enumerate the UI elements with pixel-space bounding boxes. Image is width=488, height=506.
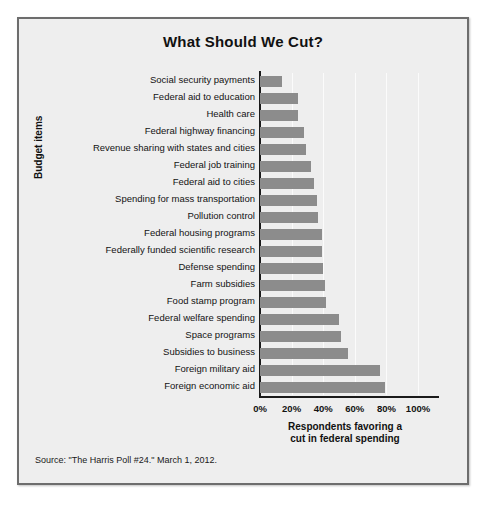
x-tick-label: 20% bbox=[282, 403, 301, 414]
category-label: Foreign economic aid bbox=[164, 380, 255, 391]
category-label: Revenue sharing with states and cities bbox=[93, 142, 255, 153]
bar bbox=[260, 365, 380, 376]
chart-title: What Should We Cut? bbox=[19, 33, 467, 50]
bar-row: Federal welfare spending bbox=[260, 311, 418, 328]
x-axis-label-line1: Respondents favoring a bbox=[260, 421, 430, 433]
category-label: Foreign military aid bbox=[175, 363, 255, 374]
bar-row: Space programs bbox=[260, 328, 418, 345]
category-label: Federal housing programs bbox=[144, 227, 255, 238]
bar-row: Pollution control bbox=[260, 209, 418, 226]
bar-row: Federally funded scientific research bbox=[260, 243, 418, 260]
bar bbox=[260, 93, 298, 104]
bar-row: Spending for mass transportation bbox=[260, 192, 418, 209]
category-label: Federal aid to cities bbox=[173, 176, 255, 187]
x-axis-label-line2: cut in federal spending bbox=[260, 433, 430, 445]
category-label: Space programs bbox=[185, 329, 255, 340]
bar-row: Federal aid to education bbox=[260, 90, 418, 107]
bar bbox=[260, 229, 322, 240]
chart-figure: What Should We Cut? Social security paym… bbox=[17, 17, 469, 485]
bar-row: Subsidies to business bbox=[260, 345, 418, 362]
bar bbox=[260, 246, 322, 257]
bar bbox=[260, 76, 282, 87]
bar-row: Food stamp program bbox=[260, 294, 418, 311]
category-label: Federal aid to education bbox=[153, 91, 255, 102]
category-label: Health care bbox=[206, 108, 255, 119]
bar-row: Federal housing programs bbox=[260, 226, 418, 243]
bar-row: Social security payments bbox=[260, 73, 418, 90]
bar-row: Farm subsidies bbox=[260, 277, 418, 294]
x-tick-label: 80% bbox=[377, 403, 396, 414]
category-label: Spending for mass transportation bbox=[115, 193, 255, 204]
category-label: Federal welfare spending bbox=[148, 312, 255, 323]
bar bbox=[260, 280, 325, 291]
bar-row: Revenue sharing with states and cities bbox=[260, 141, 418, 158]
x-axis-label: Respondents favoring a cut in federal sp… bbox=[260, 421, 430, 445]
y-axis-label: Budget items bbox=[33, 116, 44, 179]
bar-row: Federal aid to cities bbox=[260, 175, 418, 192]
bar-row: Health care bbox=[260, 107, 418, 124]
category-label: Federal highway financing bbox=[145, 125, 255, 136]
gridline bbox=[418, 73, 419, 395]
bar-row: Foreign military aid bbox=[260, 362, 418, 379]
category-label: Defense spending bbox=[178, 261, 255, 272]
category-label: Subsidies to business bbox=[163, 346, 255, 357]
x-axis-line bbox=[259, 396, 439, 398]
category-label: Farm subsidies bbox=[191, 278, 255, 289]
x-tick-label: 100% bbox=[406, 403, 430, 414]
source-note: Source: "The Harris Poll #24." March 1, … bbox=[35, 455, 217, 465]
bar-row: Federal highway financing bbox=[260, 124, 418, 141]
bar bbox=[260, 212, 318, 223]
bar bbox=[260, 314, 339, 325]
x-tick-label: 0% bbox=[253, 403, 267, 414]
bar bbox=[260, 178, 314, 189]
bar bbox=[260, 195, 317, 206]
bar bbox=[260, 144, 306, 155]
bar bbox=[260, 331, 341, 342]
category-label: Social security payments bbox=[150, 74, 255, 85]
category-label: Federally funded scientific research bbox=[106, 244, 255, 255]
category-label: Pollution control bbox=[187, 210, 255, 221]
bar bbox=[260, 348, 348, 359]
bar bbox=[260, 382, 385, 393]
bar bbox=[260, 297, 326, 308]
bar bbox=[260, 161, 311, 172]
category-label: Food stamp program bbox=[167, 295, 255, 306]
bar bbox=[260, 127, 304, 138]
x-tick-label: 60% bbox=[345, 403, 364, 414]
bar-row: Defense spending bbox=[260, 260, 418, 277]
plot-area: Social security paymentsFederal aid to e… bbox=[260, 73, 418, 395]
bar-row: Federal job training bbox=[260, 158, 418, 175]
category-label: Federal job training bbox=[174, 159, 255, 170]
bar-row: Foreign economic aid bbox=[260, 379, 418, 396]
bar bbox=[260, 263, 323, 274]
x-tick-label: 40% bbox=[314, 403, 333, 414]
bar bbox=[260, 110, 298, 121]
